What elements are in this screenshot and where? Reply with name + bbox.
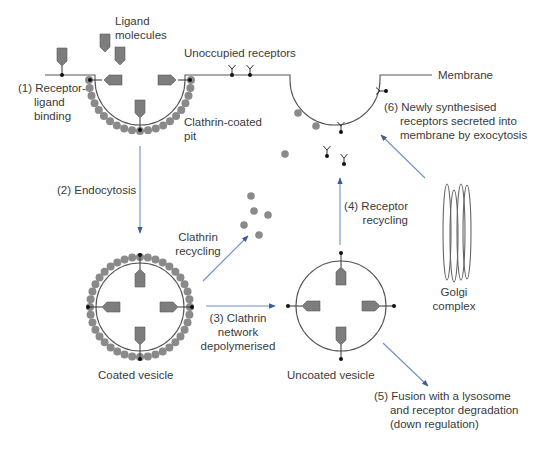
label-step5-lysosome-fusion: (5) Fusion with a lysosome and receptor … <box>374 389 519 431</box>
label-step2-endocytosis: (2) Endocytosis <box>57 183 136 197</box>
label-step3-clathrin-depolymerised: (3) Clathrin network depolymerised <box>198 311 278 353</box>
label-step6-exocytosis: (6) Newly synthesised receptors secreted… <box>384 100 527 142</box>
uncoated-vesicle <box>286 251 396 361</box>
label-clathrin-coated-pit: Clathrin-coated pit <box>184 115 262 143</box>
label-unoccupied-receptors: Unoccupied receptors <box>184 46 296 60</box>
label-step4-receptor-recycling: (4) Receptor recycling <box>342 199 408 227</box>
free-clathrin <box>240 192 272 239</box>
label-membrane: Membrane <box>438 68 493 82</box>
label-coated-vesicle: Coated vesicle <box>98 368 173 382</box>
clathrin-coated-pit <box>85 75 195 135</box>
coated-vesicle <box>86 253 194 361</box>
label-step1-receptor-ligand-binding: (1) Receptor- ligand binding <box>18 81 86 123</box>
lysosome-fusion-arrow <box>383 343 428 386</box>
process-arrows <box>140 135 428 386</box>
golgi-complex <box>443 184 471 282</box>
exocytosis-site <box>281 88 388 167</box>
label-ligand-molecules: Ligand molecules <box>115 14 167 42</box>
bound-receptor <box>57 48 67 77</box>
label-uncoated-vesicle: Uncoated vesicle <box>287 368 375 382</box>
label-golgi-complex: Golgi complex <box>428 285 480 313</box>
label-clathrin-recycling: Clathrin recycling <box>175 230 221 258</box>
